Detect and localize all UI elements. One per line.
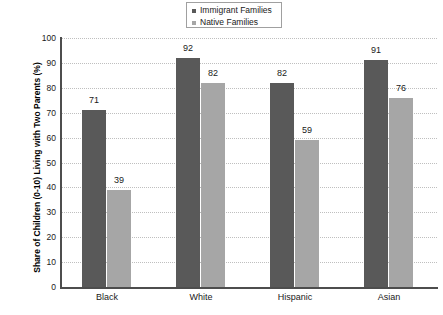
bar-chart: Immigrant Families Native Families Share…	[0, 0, 443, 315]
bar-asian-immigrant[interactable]	[364, 60, 388, 287]
square-marker-icon	[192, 21, 196, 25]
bar-group-black: 71 39	[60, 38, 154, 287]
bar-value-black-native: 39	[99, 175, 139, 185]
legend-item-immigrant-families: Immigrant Families	[192, 5, 277, 16]
x-category-label-white: White	[154, 292, 248, 303]
bar-white-immigrant[interactable]	[176, 58, 200, 287]
y-tick-90: 90	[32, 59, 56, 68]
bar-value-hispanic-native: 59	[287, 125, 327, 135]
bar-black-immigrant[interactable]	[82, 110, 106, 287]
x-category-label-asian: Asian	[342, 292, 436, 303]
bar-group-hispanic: 82 59	[248, 38, 342, 287]
bar-hispanic-immigrant[interactable]	[270, 83, 294, 287]
bars-layer: 71 39 92 82 82 59 91 76	[60, 38, 437, 287]
legend-label-native-families: Native Families	[200, 17, 258, 28]
bar-group-white: 92 82	[154, 38, 248, 287]
y-tick-50: 50	[32, 159, 56, 168]
square-marker-icon	[192, 9, 196, 13]
y-tick-70: 70	[32, 109, 56, 118]
y-tick-0: 0	[32, 283, 56, 292]
y-tick-60: 60	[32, 134, 56, 143]
bar-white-native[interactable]	[201, 83, 225, 287]
caption-clipped	[0, 307, 443, 315]
legend-label-immigrant-families: Immigrant Families	[200, 5, 272, 16]
bar-value-asian-immigrant: 91	[356, 45, 396, 55]
bar-value-white-native: 82	[193, 68, 233, 78]
bar-value-asian-native: 76	[381, 83, 421, 93]
bar-hispanic-native[interactable]	[295, 140, 319, 287]
x-category-label-black: Black	[60, 292, 154, 303]
bar-asian-native[interactable]	[389, 98, 413, 287]
y-tick-10: 10	[32, 258, 56, 267]
legend-item-native-families: Native Families	[192, 17, 277, 28]
y-tick-80: 80	[32, 84, 56, 93]
y-tick-100: 100	[32, 34, 56, 43]
y-tick-20: 20	[32, 233, 56, 242]
bar-value-hispanic-immigrant: 82	[262, 68, 302, 78]
y-tick-30: 30	[32, 208, 56, 217]
chart-legend: Immigrant Families Native Families	[186, 2, 282, 28]
x-category-label-hispanic: Hispanic	[248, 292, 342, 303]
y-axis-tick-labels: 100 90 80 70 60 50 40 30 20 10 0	[30, 38, 56, 287]
bar-black-native[interactable]	[107, 190, 131, 287]
bar-value-black-immigrant: 71	[74, 95, 114, 105]
bar-group-asian: 91 76	[342, 38, 436, 287]
x-axis-line	[60, 287, 438, 289]
y-tick-40: 40	[32, 183, 56, 192]
bar-value-white-immigrant: 92	[168, 43, 208, 53]
